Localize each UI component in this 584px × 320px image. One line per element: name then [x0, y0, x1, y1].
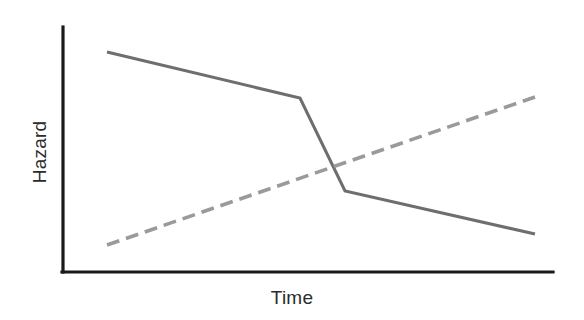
chart-figure: Hazard Time	[0, 0, 584, 320]
chart-plot-area	[0, 0, 584, 320]
series-line-declining-hazard	[107, 52, 535, 234]
y-axis-title: Hazard	[30, 92, 49, 212]
x-axis-title: Time	[0, 288, 584, 307]
series-line-rising-hazard	[107, 97, 535, 245]
